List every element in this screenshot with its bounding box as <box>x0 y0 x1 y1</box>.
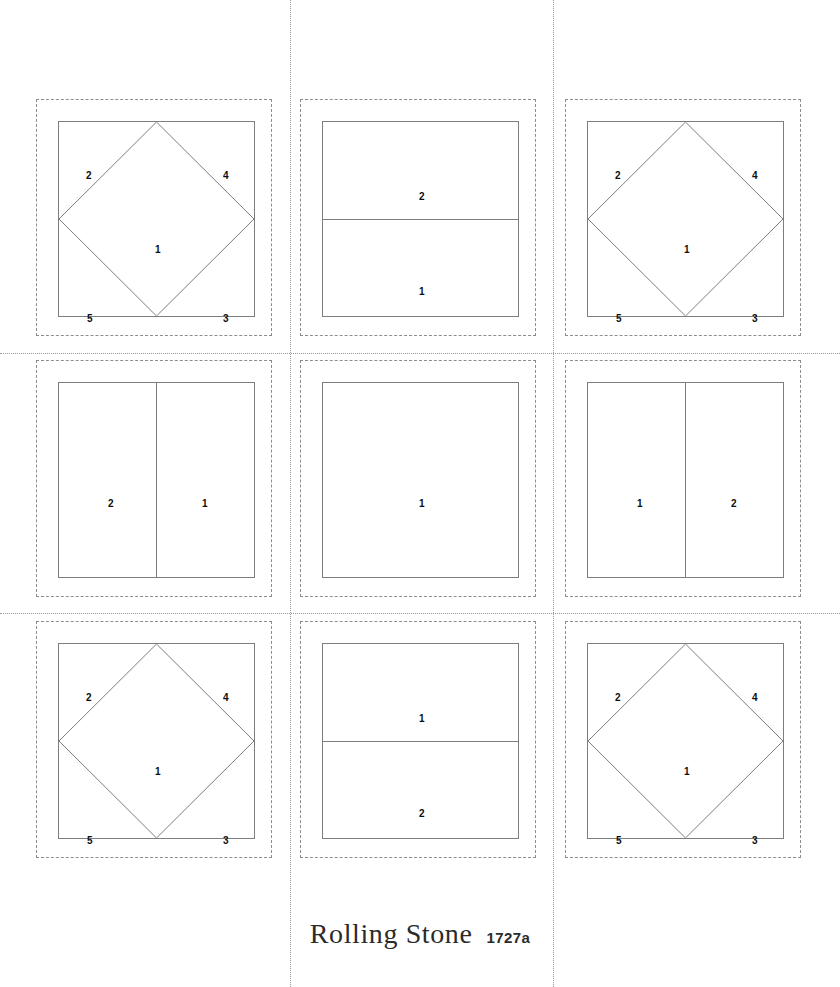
patch-square: 24153 <box>587 121 784 317</box>
patch-divider-vertical <box>156 383 157 577</box>
block-top-left: 24153 <box>36 99 272 336</box>
diamond-patch-shape <box>588 122 783 316</box>
page-guide-horizontal-0 <box>0 353 840 354</box>
patch-number-label: 1 <box>202 499 208 509</box>
block-bottom-center: 12 <box>300 621 536 858</box>
block-top-right: 24153 <box>565 99 801 336</box>
patch-divider-horizontal <box>323 219 518 220</box>
patch-divider-horizontal <box>323 741 518 742</box>
patch-number-label: 2 <box>108 499 114 509</box>
patch-number-label: 2 <box>86 693 92 703</box>
patch-square: 24153 <box>58 643 255 839</box>
patch-number-label: 3 <box>223 314 229 324</box>
diamond-patch-shape <box>588 644 783 838</box>
patch-number-label: 3 <box>223 836 229 846</box>
patch-number-label: 1 <box>419 499 425 509</box>
patch-number-label: 1 <box>419 714 425 724</box>
pattern-title: Rolling Stone <box>310 918 473 949</box>
block-top-center: 21 <box>300 99 536 336</box>
patch-number-label: 1 <box>155 767 161 777</box>
patch-square: 12 <box>587 382 784 578</box>
page-guide-horizontal-1 <box>0 613 840 614</box>
pattern-sheet: 24153212415321112241531224153 Rolling St… <box>0 0 840 987</box>
patch-number-label: 1 <box>684 767 690 777</box>
patch-number-label: 5 <box>87 836 93 846</box>
patch-square: 21 <box>322 121 519 317</box>
patch-number-label: 4 <box>223 693 229 703</box>
block-bottom-left: 24153 <box>36 621 272 858</box>
patch-number-label: 2 <box>615 693 621 703</box>
patch-number-label: 4 <box>752 171 758 181</box>
patch-number-label: 5 <box>616 836 622 846</box>
block-bottom-right: 24153 <box>565 621 801 858</box>
patch-number-label: 5 <box>87 314 93 324</box>
patch-square: 12 <box>322 643 519 839</box>
patch-number-label: 4 <box>223 171 229 181</box>
patch-number-label: 1 <box>684 245 690 255</box>
pattern-footer: Rolling Stone1727a <box>0 918 840 950</box>
patch-number-label: 1 <box>637 499 643 509</box>
patch-square: 24153 <box>587 643 784 839</box>
patch-number-label: 2 <box>615 171 621 181</box>
patch-number-label: 2 <box>419 192 425 202</box>
patch-square: 24153 <box>58 121 255 317</box>
pattern-code: 1727a <box>486 929 530 946</box>
diamond-patch-shape <box>59 122 254 316</box>
patch-square: 21 <box>58 382 255 578</box>
patch-number-label: 2 <box>419 809 425 819</box>
patch-number-label: 5 <box>616 314 622 324</box>
patch-number-label: 4 <box>752 693 758 703</box>
patch-number-label: 2 <box>86 171 92 181</box>
diamond-patch-shape <box>59 644 254 838</box>
patch-number-label: 3 <box>752 836 758 846</box>
block-middle-right: 12 <box>565 360 801 597</box>
block-middle-center: 1 <box>300 360 536 597</box>
block-middle-left: 21 <box>36 360 272 597</box>
patch-number-label: 3 <box>752 314 758 324</box>
patch-number-label: 1 <box>155 245 161 255</box>
page-guide-vertical-0 <box>290 0 291 987</box>
patch-number-label: 1 <box>419 287 425 297</box>
patch-number-label: 2 <box>731 499 737 509</box>
patch-square: 1 <box>322 382 519 578</box>
page-guide-vertical-1 <box>553 0 554 987</box>
patch-divider-vertical <box>685 383 686 577</box>
